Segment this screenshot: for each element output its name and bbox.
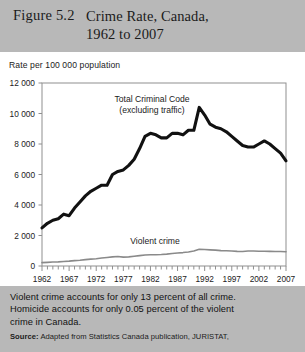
x-tick-label: 1977 [114, 274, 133, 284]
total-crime-line [42, 107, 286, 227]
violent-crime-annotation: Violent crime [130, 236, 180, 246]
y-tick-label: 0 [30, 261, 35, 271]
source-text: Adapted from Statistics Canada publicati… [40, 332, 229, 341]
footer-note: Violent crime accounts for only 13 perce… [10, 291, 298, 328]
footer-note-line2: Homicide accounts for only 0.05 percent … [10, 303, 298, 315]
footer-note-line1: Violent crime accounts for only 13 perce… [10, 291, 298, 303]
figure-source: Source: Adapted from Statistics Canada p… [10, 332, 302, 342]
figure-card: Figure 5.2 Crime Rate, Canada, 1962 to 2… [0, 0, 305, 352]
x-tick-label: 1997 [223, 274, 242, 284]
x-tick-label: 2002 [250, 274, 269, 284]
source-label: Source: [10, 332, 39, 341]
y-tick-label: 6 000 [14, 170, 35, 180]
figure-header: Figure 5.2 Crime Rate, Canada, 1962 to 2… [0, 0, 305, 52]
figure-number: Figure 5.2 [13, 7, 75, 24]
x-tick-label: 1967 [60, 274, 79, 284]
figure-title-line1: Crime Rate, Canada, [86, 8, 209, 24]
violent-crime-line [42, 249, 286, 262]
figure-title-line2: 1962 to 2007 [86, 25, 209, 43]
total-crime-annotation-line2: (excluding traffic) [119, 105, 184, 115]
total-crime-annotation: Total Criminal Code [115, 94, 190, 104]
y-tick-label: 2 000 [14, 231, 35, 241]
footer-note-line3: crime in Canada. [10, 316, 298, 328]
y-tick-label: 8 000 [14, 139, 35, 149]
x-tick-label: 1987 [168, 274, 187, 284]
y-tick-label: 12 000 [10, 78, 36, 88]
x-tick-label: 1982 [141, 274, 160, 284]
chart-area: Rate per 100 000 population 02 0004 0006… [0, 52, 305, 286]
y-tick-label: 4 000 [14, 200, 35, 210]
x-tick-label: 2007 [277, 274, 296, 284]
x-tick-label: 1992 [195, 274, 214, 284]
figure-title: Crime Rate, Canada, 1962 to 2007 [86, 7, 209, 43]
y-tick-label: 10 000 [10, 109, 36, 119]
line-chart: 02 0004 0006 0008 00010 00012 0001962196… [0, 52, 305, 286]
x-tick-label: 1962 [33, 274, 52, 284]
x-tick-label: 1972 [87, 274, 106, 284]
figure-footer: Violent crime accounts for only 13 perce… [0, 286, 305, 352]
